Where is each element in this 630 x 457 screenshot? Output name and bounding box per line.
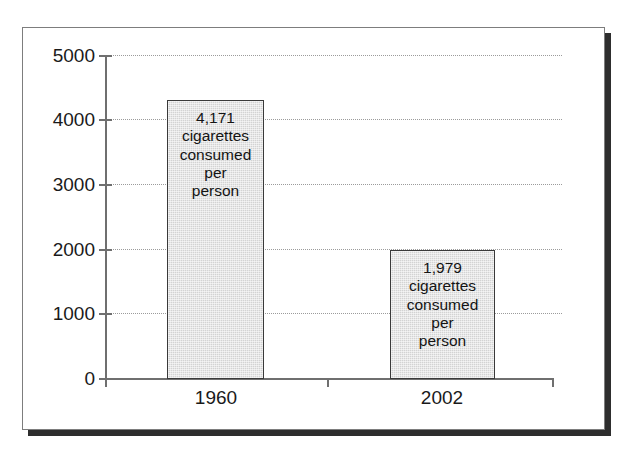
bar-2002-label-line-3: per <box>391 314 494 332</box>
bar-1960-data-label: 4,171 cigarettes consumed per person <box>168 109 263 200</box>
y-tick-2000 <box>99 249 112 251</box>
y-tick-4000 <box>99 119 112 121</box>
bar-1960-label-line-1: cigarettes <box>168 127 263 145</box>
bar-2002-label-line-4: person <box>391 332 494 350</box>
y-tick-label-1000: 1000 <box>25 304 95 323</box>
y-tick-5000 <box>99 55 112 57</box>
bar-2002-value: 1,979 <box>391 259 494 277</box>
y-tick-label-5000: 5000 <box>25 46 95 65</box>
plot-area: 5000 4000 3000 2000 1000 0 4,171 cigaret… <box>0 0 630 457</box>
bar-2002-data-label: 1,979 cigarettes consumed per person <box>391 259 494 350</box>
bar-1960[interactable]: 4,171 cigarettes consumed per person <box>167 100 264 379</box>
gridline-5000 <box>106 55 562 56</box>
bar-1960-label-line-3: per <box>168 164 263 182</box>
y-tick-label-2000: 2000 <box>25 240 95 259</box>
x-category-label-2002: 2002 <box>382 388 502 407</box>
x-category-label-1960: 1960 <box>156 388 276 407</box>
bar-1960-label-line-2: consumed <box>168 146 263 164</box>
chart-figure: 5000 4000 3000 2000 1000 0 4,171 cigaret… <box>0 0 630 457</box>
y-tick-3000 <box>99 184 112 186</box>
x-tick-start <box>105 378 107 387</box>
bar-2002[interactable]: 1,979 cigarettes consumed per person <box>390 250 495 379</box>
bar-1960-value: 4,171 <box>168 109 263 127</box>
x-tick-center <box>327 378 329 387</box>
x-tick-end <box>552 378 554 387</box>
y-tick-label-0: 0 <box>25 369 95 388</box>
y-tick-label-3000: 3000 <box>25 175 95 194</box>
y-axis-line <box>105 55 107 379</box>
bar-2002-label-line-2: consumed <box>391 296 494 314</box>
bar-2002-label-line-1: cigarettes <box>391 277 494 295</box>
y-tick-label-4000: 4000 <box>25 110 95 129</box>
bar-1960-label-line-4: person <box>168 182 263 200</box>
y-tick-1000 <box>99 313 112 315</box>
